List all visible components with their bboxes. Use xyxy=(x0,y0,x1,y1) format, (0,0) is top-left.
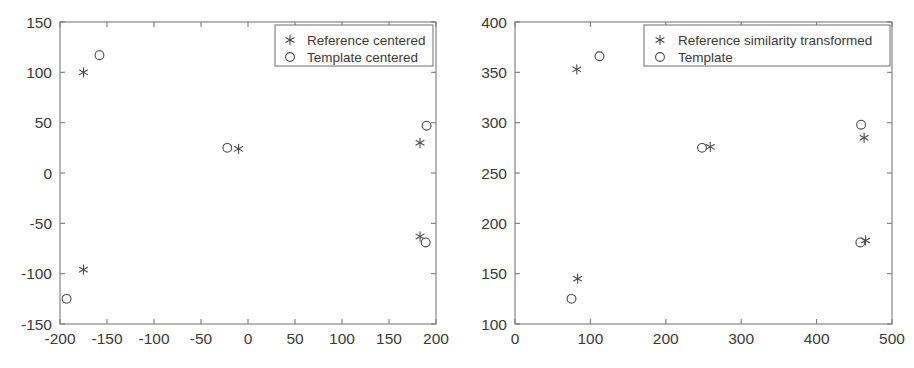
data-markers xyxy=(567,52,869,303)
x-axis: 0100200300400500 xyxy=(511,22,906,347)
series-circle xyxy=(567,52,865,303)
data-point-circle xyxy=(223,143,232,152)
data-markers xyxy=(62,51,431,303)
y-tick-label: -50 xyxy=(30,215,53,232)
chart-panel-right: 0100200300400500100150200250300350400Ref… xyxy=(457,0,914,368)
y-tick-label: -150 xyxy=(21,316,52,333)
scatter-plot-right: 0100200300400500100150200250300350400Ref… xyxy=(457,0,914,368)
data-point-circle xyxy=(856,238,865,247)
chart-panel-left: -200-150-100-50050100150200-150-100-5005… xyxy=(0,0,457,368)
data-point-circle xyxy=(62,294,71,303)
x-tick-label: 200 xyxy=(653,330,679,347)
x-tick-label: 50 xyxy=(286,330,304,347)
legend-label: Reference centered xyxy=(307,33,426,48)
x-tick-label: -100 xyxy=(138,330,169,347)
data-point-circle xyxy=(567,294,576,303)
x-axis: -200-150-100-50050100150200 xyxy=(44,22,449,347)
y-tick-label: 0 xyxy=(43,165,52,182)
data-point-asterisk xyxy=(706,142,714,151)
y-tick-label: 350 xyxy=(481,64,507,81)
data-point-asterisk xyxy=(416,138,424,147)
y-tick-label: 200 xyxy=(481,215,507,232)
x-tick-label: 150 xyxy=(376,330,402,347)
data-point-circle xyxy=(857,120,866,129)
x-tick-label: 400 xyxy=(804,330,830,347)
data-point-asterisk xyxy=(80,265,88,274)
series-circle xyxy=(62,51,431,303)
data-point-circle xyxy=(421,238,430,247)
data-point-asterisk xyxy=(573,65,581,74)
y-tick-label: 100 xyxy=(26,64,52,81)
x-tick-label: 100 xyxy=(329,330,355,347)
x-tick-label: -50 xyxy=(190,330,213,347)
data-point-circle xyxy=(422,121,431,130)
legend: Reference similarity transformedTemplate xyxy=(644,25,890,66)
y-tick-label: 300 xyxy=(481,114,507,131)
y-tick-label: 100 xyxy=(481,316,507,333)
x-tick-label: -150 xyxy=(91,330,122,347)
data-point-circle xyxy=(698,143,707,152)
axes-box xyxy=(515,22,892,324)
axes-box xyxy=(60,22,436,324)
x-tick-label: -200 xyxy=(44,330,75,347)
data-point-circle xyxy=(595,52,604,61)
data-point-asterisk xyxy=(862,236,870,245)
x-tick-label: 200 xyxy=(423,330,449,347)
y-tick-label: 400 xyxy=(481,14,507,31)
legend-label: Reference similarity transformed xyxy=(678,33,872,48)
data-point-asterisk xyxy=(860,133,868,142)
series-asterisk xyxy=(573,65,870,284)
legend-label: Template xyxy=(678,50,733,65)
y-tick-label: 150 xyxy=(481,265,507,282)
legend-label: Template centered xyxy=(307,50,418,65)
data-point-asterisk xyxy=(235,144,243,153)
x-tick-label: 300 xyxy=(728,330,754,347)
figure-root: -200-150-100-50050100150200-150-100-5005… xyxy=(0,0,914,368)
x-tick-label: 500 xyxy=(879,330,905,347)
data-point-asterisk xyxy=(574,274,582,283)
data-point-asterisk xyxy=(80,68,88,77)
y-tick-label: 250 xyxy=(481,165,507,182)
y-tick-label: 50 xyxy=(35,114,53,131)
scatter-plot-left: -200-150-100-50050100150200-150-100-5005… xyxy=(0,0,457,368)
x-tick-label: 0 xyxy=(244,330,253,347)
series-asterisk xyxy=(80,68,424,275)
y-tick-label: 150 xyxy=(26,14,52,31)
legend: Reference centeredTemplate centered xyxy=(275,25,433,66)
y-tick-label: -100 xyxy=(21,265,52,282)
data-point-circle xyxy=(95,51,104,60)
x-tick-label: 0 xyxy=(511,330,520,347)
x-tick-label: 100 xyxy=(577,330,603,347)
